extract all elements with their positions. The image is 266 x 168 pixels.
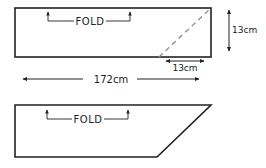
cut-width-dimension: 13cm: [166, 61, 204, 73]
fold-bracket: FOLD: [48, 12, 130, 27]
cut-strip-trapezoid: [15, 105, 211, 157]
cut-width-label: 13cm: [172, 63, 197, 73]
fold-label: FOLD: [76, 16, 105, 27]
length-dimension: 172cm: [23, 74, 199, 85]
top-panel: FOLD 13cm 13cm 172cm: [15, 8, 257, 85]
height-dimension: 13cm: [229, 10, 257, 51]
diagonal-cut-dashed-line: [159, 8, 211, 57]
length-label: 172cm: [94, 74, 128, 85]
height-label: 13cm: [232, 25, 257, 35]
bottom-panel: FOLD: [15, 105, 211, 157]
fabric-strip-rectangle: [15, 8, 211, 57]
fold-bracket-bottom: FOLD: [47, 110, 128, 125]
fold-diagram: FOLD 13cm 13cm 172cm FOLD: [0, 0, 266, 168]
fold-label: FOLD: [74, 114, 103, 125]
